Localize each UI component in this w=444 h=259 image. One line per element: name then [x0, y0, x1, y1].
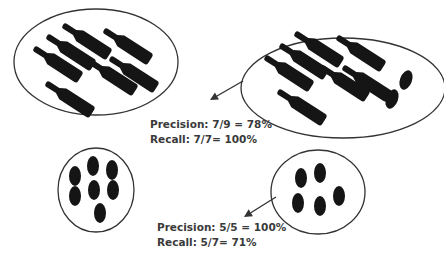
olive-icon: [88, 180, 100, 200]
olive-icon: [106, 160, 118, 180]
arrow-olives-icon: [244, 197, 276, 217]
bottle-icon: [274, 86, 327, 127]
bottle-icon: [333, 32, 386, 73]
arrow-bottles-icon: [210, 81, 243, 100]
olive-icon: [295, 168, 307, 188]
olive-icon: [107, 180, 119, 200]
olives-precision-label: Precision: 5/5 = 100%: [157, 221, 287, 233]
olives-metrics: Precision: 5/5 = 100% Recall: 5/7= 71%: [157, 221, 287, 248]
olive-icon: [292, 193, 304, 213]
cluster-true-olives: [58, 148, 134, 232]
arrows-layer: [210, 81, 276, 217]
olive-icon: [314, 163, 326, 183]
olive-icon: [314, 196, 326, 216]
olive-icon: [94, 203, 106, 223]
cluster-true-bottles: [14, 9, 178, 118]
bottles-recall-label: Recall: 7/7= 100%: [150, 133, 257, 145]
olive-icon: [397, 69, 415, 92]
olive-icon: [69, 166, 81, 186]
olives-recall-label: Recall: 5/7= 71%: [157, 236, 257, 248]
olive-icon: [333, 186, 345, 206]
bottle-icon: [100, 25, 153, 66]
bottles-precision-label: Precision: 7/9 = 78%: [150, 118, 272, 130]
olive-icon: [69, 186, 81, 206]
olive-icon: [87, 156, 99, 176]
precision-recall-diagram: Precision: 7/9 = 78% Recall: 7/7= 100% P…: [0, 0, 444, 259]
bottles-metrics: Precision: 7/9 = 78% Recall: 7/7= 100%: [150, 118, 272, 145]
